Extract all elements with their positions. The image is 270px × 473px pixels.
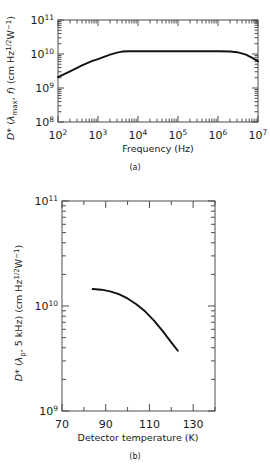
- ylabel-units-close: ): [5, 16, 16, 20]
- xtick-label-0: 102: [49, 128, 68, 143]
- xtick-b-label-2: 110: [139, 418, 160, 431]
- panel-a-label: (a): [129, 163, 140, 172]
- ylabel-b-sup-half: 1/2: [13, 268, 21, 279]
- ylabel-symbol: D*: [5, 128, 16, 140]
- ylabel-b-symbol: D*: [13, 369, 24, 381]
- ylabel-b-lambda: λ: [13, 357, 24, 364]
- svg-text:1011: 1011: [34, 194, 58, 209]
- ytick-mantissa-0: 10: [35, 116, 49, 129]
- xtick-label-1: 103: [89, 128, 108, 143]
- ytick-mantissa-2: 10: [30, 48, 44, 61]
- svg-text:D* (λp, 5 kHz) (cm Hz1/2W−1): D* (λp, 5 kHz) (cm Hz1/2W−1): [13, 245, 27, 381]
- xtick-label-3: 105: [169, 128, 188, 143]
- xtick-b-label-0: 70: [55, 418, 69, 431]
- xtick-label-4: 106: [209, 128, 228, 143]
- panel-b-label: (b): [129, 452, 140, 461]
- xtick-label-2: 104: [129, 128, 148, 143]
- ylabel-args-open: (: [5, 121, 16, 128]
- ylabel-lambda: λ: [5, 116, 16, 123]
- panel-b-data-curve: [93, 289, 178, 351]
- panel-b-ytick-labels: 1011 1010 109: [34, 194, 58, 419]
- svg-text:108: 108: [35, 115, 54, 130]
- figure-container: D* (λmax, f) (cm Hz1/2W−1) 1011 1010 109…: [0, 0, 270, 473]
- ylabel-b-units-open: (cm Hz: [13, 280, 24, 316]
- panel-b-yaxis-label: D* (λp, 5 kHz) (cm Hz1/2W−1): [13, 245, 27, 381]
- svg-text:D* (λmax, f) (cm Hz1/2W−1): D* (λmax, f) (cm Hz1/2W−1): [5, 16, 19, 140]
- svg-text:1010: 1010: [34, 299, 58, 314]
- svg-text:1011: 1011: [30, 13, 54, 28]
- panel-a-xtick-labels: 102103104105106107: [49, 128, 268, 143]
- ylabel-sup-half: 1/2: [5, 40, 13, 51]
- ytick-b-exp-2: 11: [48, 194, 58, 203]
- ytick-b-exp-1: 10: [48, 299, 58, 308]
- panel-b-minor-ticks: [62, 206, 215, 380]
- panel-a-major-ticks: [58, 20, 258, 122]
- svg-text:1010: 1010: [30, 47, 54, 62]
- ylabel-sup-minus1: −1: [5, 20, 13, 30]
- ylabel-b-args-open: (: [13, 362, 24, 369]
- ytick-mantissa-3: 10: [30, 14, 44, 27]
- ytick-exp-3: 11: [44, 13, 54, 22]
- panel-a-yaxis-label: D* (λmax, f) (cm Hz1/2W−1): [5, 16, 19, 140]
- ylabel-b-arg-rest: , 5 kHz): [13, 316, 24, 352]
- ytick-b-mantissa-2: 10: [34, 195, 48, 208]
- ytick-exp-0: 8: [49, 115, 54, 124]
- ytick-exp-1: 9: [49, 81, 54, 90]
- xtick-label-5: 107: [249, 128, 268, 143]
- ylabel-units-open: (cm Hz: [5, 51, 16, 87]
- ylabel-b-sup-minus1: −1: [13, 249, 21, 259]
- xtick-b-label-1: 90: [99, 418, 113, 431]
- ytick-exp-2: 10: [44, 47, 54, 56]
- ytick-b-exp-0: 9: [53, 404, 58, 413]
- ytick-b-mantissa-1: 10: [34, 300, 48, 313]
- panel-b-xtick-labels: 7090110130: [55, 418, 204, 431]
- panel-b-chart: D* (λp, 5 kHz) (cm Hz1/2W−1) 1011 1010 1…: [0, 185, 270, 473]
- ylabel-sub: max: [11, 100, 19, 115]
- panel-a-data-curve: [58, 51, 258, 77]
- panel-a-xaxis-major-ticks: [58, 20, 258, 122]
- ytick-b-mantissa-0: 10: [39, 405, 53, 418]
- panel-a-minor-ticks: [58, 20, 258, 122]
- panel-a-plot-frame: [58, 20, 258, 122]
- ylabel-b-units-close: ): [13, 245, 24, 249]
- svg-text:109: 109: [35, 81, 54, 96]
- panel-a-xaxis-label: Frequency (Hz): [122, 143, 194, 154]
- svg-text:109: 109: [39, 404, 58, 419]
- ytick-mantissa-1: 10: [35, 82, 49, 95]
- panel-b-xaxis-label: Detector temperature (K): [78, 432, 199, 443]
- xtick-b-label-3: 130: [183, 418, 204, 431]
- panel-a-chart: D* (λmax, f) (cm Hz1/2W−1) 1011 1010 109…: [0, 0, 270, 185]
- panel-a-ytick-labels: 1011 1010 109 108: [30, 13, 54, 130]
